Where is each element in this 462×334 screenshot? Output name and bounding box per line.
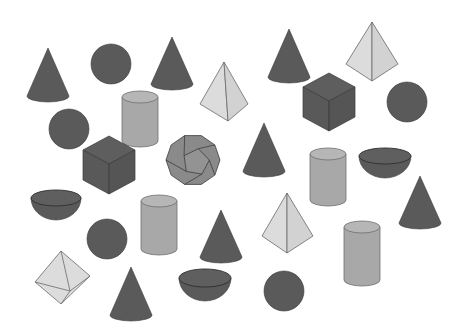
sphere-shape bbox=[387, 82, 427, 122]
sphere-shape bbox=[264, 271, 304, 311]
dodecahedron-shape bbox=[166, 136, 220, 185]
cylinder-shape bbox=[141, 195, 177, 255]
sphere-shape bbox=[91, 44, 131, 84]
cylinder-shape bbox=[122, 91, 158, 147]
cylinder-shape bbox=[344, 221, 380, 286]
sphere-shape bbox=[87, 219, 127, 259]
sphere-shape bbox=[49, 109, 89, 149]
cylinder-shape bbox=[310, 148, 346, 206]
geometric-solids-scene bbox=[0, 0, 462, 334]
